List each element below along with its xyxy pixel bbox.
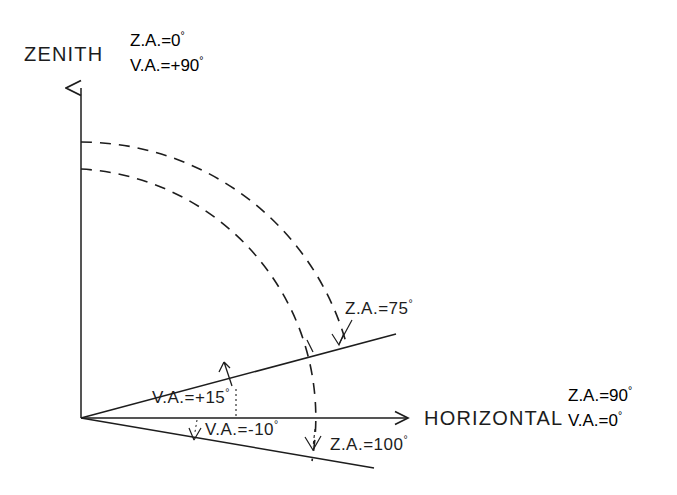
lower-ray-za-label: Z.A.=100° bbox=[330, 436, 408, 454]
upper-ray-line bbox=[81, 334, 396, 418]
upper-ray-za-label: Z.A.=75° bbox=[345, 300, 413, 318]
za100-pointer bbox=[305, 429, 321, 450]
zenith-za-label: Z.A.=0° bbox=[130, 31, 204, 51]
degree-symbol: ° bbox=[618, 409, 622, 421]
horizontal-axis-label: HORIZONTAL bbox=[424, 408, 563, 429]
horizontal-va-label: V.A.=0° bbox=[568, 411, 632, 431]
horizontal-annotation-group: Z.A.=90° V.A.=0° bbox=[568, 386, 632, 431]
arc-ray-tick bbox=[307, 340, 313, 352]
degree-symbol: ° bbox=[409, 297, 414, 309]
degree-symbol: ° bbox=[274, 418, 279, 430]
degree-symbol: ° bbox=[403, 433, 408, 445]
degree-symbol: ° bbox=[628, 384, 632, 396]
outer-dashed-arc bbox=[81, 142, 347, 346]
zenith-annotation-group: Z.A.=0° V.A.=+90° bbox=[130, 31, 204, 76]
zenith-va-label: V.A.=+90° bbox=[130, 56, 204, 76]
inner-dashed-arc bbox=[81, 169, 316, 461]
zenith-axis-label: ZENITH bbox=[24, 44, 103, 65]
degree-symbol: ° bbox=[199, 54, 203, 66]
za75-pointer bbox=[332, 320, 352, 345]
lower-ray-va-label: V.A.=-10° bbox=[205, 421, 279, 439]
horizontal-za-label: Z.A.=90° bbox=[568, 386, 632, 406]
degree-symbol: ° bbox=[225, 386, 230, 398]
diagram-canvas: ZENITH Z.A.=0° V.A.=+90° HORIZONTAL Z.A.… bbox=[0, 0, 677, 495]
degree-symbol: ° bbox=[181, 29, 185, 41]
upper-ray-va-label: V.A.=+15° bbox=[152, 389, 230, 407]
